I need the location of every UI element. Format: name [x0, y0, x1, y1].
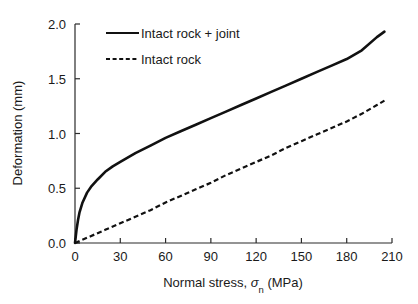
y-tick-label: 0.5 — [48, 181, 66, 196]
x-tick-label: 0 — [71, 249, 78, 264]
chart-figure: 0306090120150180210 0.00.51.01.52.0 Inta… — [0, 0, 418, 304]
x-tick-label: 90 — [204, 249, 218, 264]
legend-label-intact-rock-plus-joint: Intact rock + joint — [141, 26, 240, 41]
x-tick-label: 210 — [381, 249, 403, 264]
x-tick-label: 180 — [336, 249, 358, 264]
y-tick-label: 1.0 — [48, 127, 66, 142]
y-tick-label: 0.0 — [48, 236, 66, 251]
deformation-vs-normal-stress-chart: 0306090120150180210 0.00.51.01.52.0 Inta… — [0, 0, 418, 304]
x-tick-label: 30 — [113, 249, 127, 264]
x-tick-label: 60 — [158, 249, 172, 264]
x-tick-label: 120 — [245, 249, 267, 264]
x-tick-label: 150 — [291, 249, 313, 264]
y-axis-title: Deformation (mm) — [10, 81, 25, 186]
legend-label-intact-rock: Intact rock — [141, 52, 201, 67]
y-tick-label: 1.5 — [48, 72, 66, 87]
y-tick-label: 2.0 — [48, 17, 66, 32]
